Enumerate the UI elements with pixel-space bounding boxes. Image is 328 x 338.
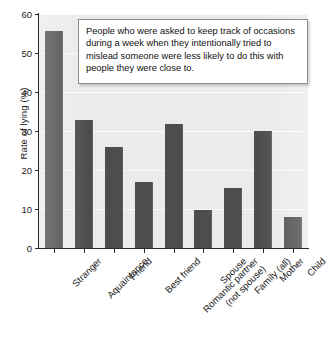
y-axis-tick-mark xyxy=(35,170,39,171)
bar xyxy=(224,188,242,248)
y-axis-tick-label: 40 xyxy=(12,87,32,98)
y-axis-tick-label: 0 xyxy=(12,243,32,254)
x-axis-tick-mark xyxy=(263,249,264,253)
bar xyxy=(254,131,272,248)
x-axis-tick-mark xyxy=(233,249,234,253)
bar xyxy=(75,120,93,248)
y-axis-tick-mark xyxy=(35,53,39,54)
y-axis-tick-mark xyxy=(35,131,39,132)
annotation-callout-text: People who were asked to keep track of o… xyxy=(86,25,301,74)
x-axis-tick-label: Friend xyxy=(128,256,154,282)
y-axis-tick-mark xyxy=(35,92,39,93)
y-axis-tick-mark xyxy=(35,209,39,210)
y-axis-tick-label: 50 xyxy=(12,48,32,59)
x-axis-tick-mark xyxy=(54,249,55,253)
annotation-callout-box: People who were asked to keep track of o… xyxy=(78,19,308,84)
x-axis-tick-mark xyxy=(293,249,294,253)
y-axis-tick-label: 10 xyxy=(12,204,32,215)
gridline xyxy=(39,14,308,15)
bar xyxy=(194,210,212,248)
x-axis-tick-mark xyxy=(144,249,145,253)
y-axis-tick-mark xyxy=(35,248,39,249)
x-axis-tick-label: Child xyxy=(305,256,328,279)
x-axis-tick-mark xyxy=(114,249,115,253)
y-axis-tick-mark xyxy=(35,14,39,15)
figure-caption xyxy=(12,331,312,338)
x-axis-tick-label: Stranger xyxy=(71,256,104,289)
y-axis-tick-label: 60 xyxy=(12,9,32,20)
x-axis-tick-label: Best friend xyxy=(163,256,203,296)
y-axis-tick-group: 0102030405060 xyxy=(10,0,32,338)
bar xyxy=(284,217,302,248)
bar xyxy=(135,182,153,248)
x-axis-tick-mark xyxy=(203,249,204,253)
bar xyxy=(45,31,63,248)
y-axis-tick-label: 20 xyxy=(12,165,32,176)
gridline xyxy=(39,92,308,93)
x-axis-tick-mark xyxy=(174,249,175,253)
bar xyxy=(105,147,123,248)
y-axis-tick-label: 30 xyxy=(12,126,32,137)
bar xyxy=(165,124,183,248)
x-axis-tick-mark xyxy=(84,249,85,253)
